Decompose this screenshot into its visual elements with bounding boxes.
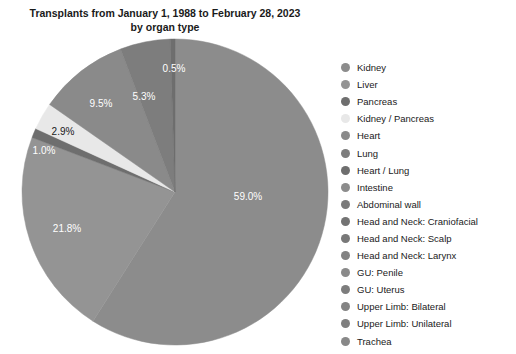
legend-item[interactable]: Pancreas (341, 93, 516, 110)
legend-item[interactable]: Heart / Lung (341, 162, 516, 179)
legend-item[interactable]: Head and Neck: Craniofacial (341, 213, 516, 230)
legend-swatch-icon (341, 234, 350, 243)
legend-item-label: GU: Penile (357, 267, 403, 278)
legend-swatch-icon (341, 63, 350, 72)
legend-swatch-icon (341, 217, 350, 226)
legend-swatch-icon (341, 285, 350, 294)
chart-legend: KidneyLiverPancreasKidney / PancreasHear… (341, 59, 516, 350)
legend-item[interactable]: Upper Limb: Unilateral (341, 315, 516, 332)
legend-swatch-icon (341, 149, 350, 158)
pie-svg (0, 0, 340, 354)
legend-item-label: Abdominal wall (357, 199, 421, 210)
legend-item-label: Lung (357, 148, 378, 159)
legend-item[interactable]: Head and Neck: Larynx (341, 247, 516, 264)
legend-swatch-icon (341, 200, 350, 209)
legend-item[interactable]: Lung (341, 144, 516, 161)
legend-swatch-icon (341, 183, 350, 192)
legend-item-label: GU: Uterus (357, 284, 405, 295)
legend-item-label: Liver (357, 79, 378, 90)
legend-item-label: Upper Limb: Bilateral (357, 301, 446, 312)
legend-item-label: Intestine (357, 182, 393, 193)
legend-swatch-icon (341, 80, 350, 89)
legend-item-label: Head and Neck: Craniofacial (357, 216, 478, 227)
legend-item-label: Pancreas (357, 96, 397, 107)
pie-plot-area: 59.0%21.8%1.0%2.9%9.5%5.3%0.5% (0, 0, 340, 354)
pie-chart-figure: Transplants from January 1, 1988 to Febr… (0, 0, 516, 354)
legend-item[interactable]: GU: Penile (341, 264, 516, 281)
legend-item[interactable]: Upper Limb: Bilateral (341, 298, 516, 315)
legend-swatch-icon (341, 337, 350, 346)
legend-item-label: Upper Limb: Unilateral (357, 318, 452, 329)
legend-item[interactable]: Abdominal wall (341, 196, 516, 213)
legend-swatch-icon (341, 268, 350, 277)
legend-item[interactable]: Liver (341, 76, 516, 93)
legend-item[interactable]: GU: Uterus (341, 281, 516, 298)
legend-item-label: Heart (357, 130, 380, 141)
legend-item-label: Heart / Lung (357, 165, 409, 176)
legend-item[interactable]: Kidney / Pancreas (341, 110, 516, 127)
legend-swatch-icon (341, 166, 350, 175)
legend-item[interactable]: Heart (341, 127, 516, 144)
legend-item-label: Kidney (357, 62, 386, 73)
legend-item[interactable]: Trachea (341, 333, 516, 350)
legend-swatch-icon (341, 131, 350, 140)
legend-swatch-icon (341, 251, 350, 260)
legend-item[interactable]: Head and Neck: Scalp (341, 230, 516, 247)
legend-item[interactable]: Kidney (341, 59, 516, 76)
legend-item-label: Head and Neck: Scalp (357, 233, 452, 244)
legend-item-label: Trachea (357, 336, 392, 347)
legend-swatch-icon (341, 319, 350, 328)
legend-swatch-icon (341, 302, 350, 311)
legend-item-label: Kidney / Pancreas (357, 113, 434, 124)
legend-item[interactable]: Intestine (341, 179, 516, 196)
legend-swatch-icon (341, 97, 350, 106)
legend-swatch-icon (341, 114, 350, 123)
legend-item-label: Head and Neck: Larynx (357, 250, 456, 261)
